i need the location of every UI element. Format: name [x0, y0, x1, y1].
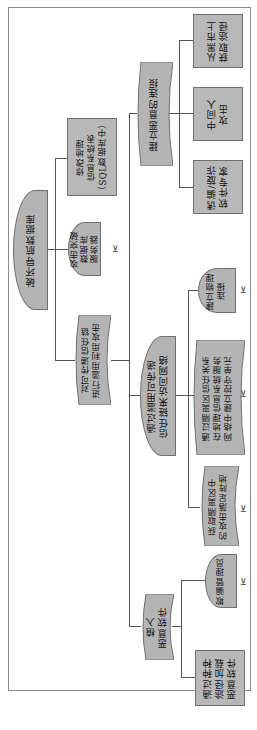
connector — [55, 158, 56, 361]
node-attack-db-server: 攻击突破 数据库 服务器 — [68, 222, 101, 276]
node-black-market: 从黑市上 获取途径 — [193, 14, 243, 68]
node-label: 中间人 攻击 — [206, 98, 230, 130]
leaf-marker-icon: ⊻ — [240, 390, 247, 399]
connector — [129, 113, 130, 627]
connector — [55, 360, 75, 361]
node-label: 从黑市上 获取途径 — [206, 20, 230, 62]
node-physical-connection: 建立物理 连接 — [198, 268, 236, 313]
node-label: 建立物理 连接 — [206, 272, 228, 310]
node-label: 通过滥用可传递 信任链来访问网络 — [146, 354, 170, 438]
node-label: 欺骗管理员 — [215, 557, 227, 605]
connector — [181, 580, 205, 581]
node-label: 获取隔离区中 的攻击落足阵地 — [208, 473, 230, 540]
node-mitm: 中间人 攻击 — [193, 87, 243, 141]
node-load-malware: 通过种种 途径加载 恶意软件 — [195, 650, 245, 706]
connector — [55, 249, 68, 250]
leaf-marker-icon: ⊻ — [240, 578, 247, 587]
connector — [179, 40, 180, 188]
node-label: 通过隔离区信任关系 在地理信息系统服务 网络中建立控守单元 — [202, 355, 235, 441]
node-deceive-admin: 欺骗管理员 — [205, 554, 237, 608]
connector — [188, 290, 189, 508]
node-dmz-trust: 通过隔离区信任关系 在地理信息系统服务 网络中建立控守单元 — [191, 340, 245, 455]
node-label: 植入 恶意软件 — [145, 606, 169, 648]
node-label: 攻击突破 数据库 服务器 — [70, 230, 100, 268]
connector — [55, 158, 67, 159]
node-modify-gis-table: 修改地理 信息系统表 （SQL数据库中） — [67, 118, 117, 196]
connector — [111, 360, 129, 361]
root-label: 破坏导航数据库 — [25, 213, 37, 287]
node-lure-expert: 诱骗/旋诈 软件专家 — [193, 160, 243, 214]
node-label: 修改地理 信息系统表 （SQL数据库中） — [76, 119, 109, 195]
connector — [181, 580, 182, 678]
node-dmz-foothold: 获取隔离区中 的攻击落足阵地 — [199, 466, 239, 546]
connector — [179, 187, 193, 188]
node-malicious-connection: 建立恶意的连接 — [135, 62, 173, 166]
node-access-network: 通过滥用可传递 信任链来访问网络 — [140, 336, 176, 456]
node-label: 诱骗/旋诈 软件专家 — [206, 164, 230, 210]
leaf-marker-icon: ⊻ — [240, 505, 247, 514]
node-label: 建立恶意的连接 — [148, 77, 160, 151]
connector — [176, 395, 188, 396]
leaf-marker-icon: ⊻ — [240, 286, 247, 295]
connector — [48, 249, 55, 250]
connector — [179, 40, 193, 41]
node-abuse-trust-chain: 对可传递信任链 进行滥用利用攻击 — [73, 315, 111, 405]
node-label: 对可传递信任链 进行滥用利用攻击 — [81, 322, 103, 398]
connector — [179, 113, 193, 114]
leaf-marker-icon: ⊻ — [112, 245, 119, 254]
node-implant-malware: 植入 恶意软件 — [140, 594, 174, 660]
node-label: 通过种种 途径加载 恶意软件 — [202, 657, 238, 699]
connector — [188, 290, 198, 291]
connector — [181, 677, 195, 678]
